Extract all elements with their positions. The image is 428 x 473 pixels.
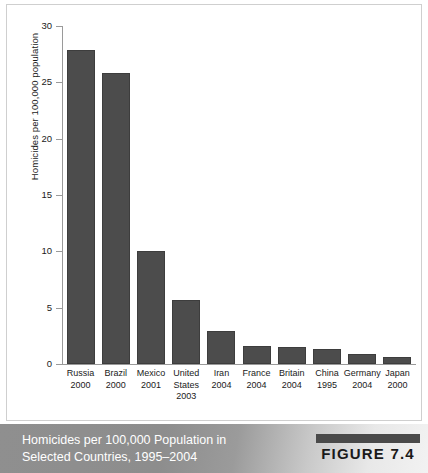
y-axis-tick: 0 — [56, 364, 63, 365]
y-axis-tick-label: 20 — [41, 133, 52, 144]
chart-panel: Homicides per 100,000 population 0510152… — [6, 4, 422, 421]
bar — [313, 349, 341, 364]
y-axis-tick-label: 5 — [47, 302, 52, 313]
category-year: 2003 — [166, 391, 207, 403]
bar — [348, 354, 376, 364]
caption-band: Homicides per 100,000 Population in Sele… — [0, 424, 428, 473]
x-axis-category-labels: Russia2000Brazil2000Mexico2001United Sta… — [63, 368, 415, 418]
figure-number-label: FIGURE 7.4 — [316, 445, 420, 462]
y-axis-tick: 20 — [56, 139, 63, 140]
bar — [67, 50, 95, 364]
figure-caption: Homicides per 100,000 Population in Sele… — [22, 432, 302, 466]
y-axis-tick-label: 10 — [41, 245, 52, 256]
y-axis-tick-label: 30 — [41, 20, 52, 31]
y-axis-tick: 5 — [56, 308, 63, 309]
badge-bar-decoration — [316, 434, 420, 443]
x-axis-category-label: Japan2000 — [377, 368, 418, 391]
y-axis-tick: 30 — [56, 26, 63, 27]
y-axis-tick: 15 — [56, 195, 63, 196]
bar — [278, 347, 306, 364]
category-country-name: Japan — [377, 368, 418, 380]
bar — [207, 331, 235, 364]
figure-container: Homicides per 100,000 population 0510152… — [0, 0, 428, 473]
bar — [383, 357, 411, 364]
bar — [172, 300, 200, 364]
bar — [137, 251, 165, 364]
caption-line-1: Homicides per 100,000 Population in — [22, 432, 302, 449]
category-year: 2000 — [377, 380, 418, 392]
y-axis-tick-label: 25 — [41, 76, 52, 87]
bar — [243, 346, 271, 364]
y-axis-label: Homicides per 100,000 population — [29, 2, 40, 212]
plot-area: Homicides per 100,000 population 0510152… — [7, 5, 421, 420]
bar — [102, 73, 130, 364]
y-axis-tick-label: 0 — [47, 358, 52, 369]
figure-number-badge: FIGURE 7.4 — [316, 434, 420, 462]
bar-series — [63, 5, 415, 365]
caption-line-2: Selected Countries, 1995–2004 — [22, 449, 302, 466]
y-axis-tick-label: 15 — [41, 189, 52, 200]
y-axis-tick: 25 — [56, 82, 63, 83]
y-axis-tick: 10 — [56, 251, 63, 252]
